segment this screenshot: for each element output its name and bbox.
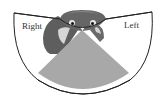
- bird-right-eye: [71, 22, 74, 25]
- right-field-label: Right: [22, 22, 42, 31]
- left-field-label: Left: [124, 21, 139, 30]
- visual-field-diagram: Right Left: [0, 0, 161, 105]
- visual-field-graphic: [0, 0, 161, 105]
- bird-left-eye: [91, 22, 94, 25]
